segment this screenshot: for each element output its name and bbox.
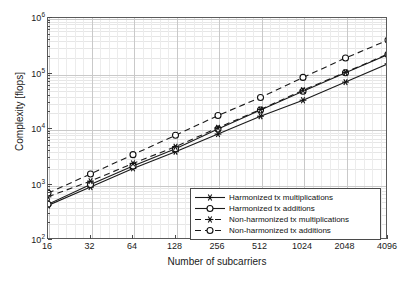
y-tick [48,56,50,57]
y-tick [48,206,50,207]
legend-item: Harmonized tx additions [194,203,376,214]
x-tick-label: 512 [252,241,267,251]
y-tick [48,184,52,185]
series-2 [48,51,387,200]
legend-item: Non-harmonized tx additions [194,225,376,236]
y-tick [48,128,52,129]
y-tick [48,145,50,146]
y-tick [48,133,50,134]
circle-marker-icon [194,225,226,236]
y-tick [48,26,50,27]
y-tick [48,81,50,82]
legend: Harmonized tx multiplicationsHarmonized … [190,188,381,240]
x-tick-label: 256 [209,241,224,251]
y-tick [48,78,50,79]
y-tick [48,34,50,35]
y-tick [48,39,50,40]
y-tick [48,167,50,168]
circle-marker-icon [194,203,226,214]
x-axis-label: Number of subcarriers [47,256,387,267]
y-tick [48,22,50,23]
legend-label: Non-harmonized tx multiplications [226,214,349,225]
y-tick [48,89,50,90]
y-tick [48,29,50,30]
y-tick [48,111,50,112]
y-tick [48,196,50,197]
y-tick [48,157,50,158]
y-tick [48,239,52,240]
star-marker-icon [194,192,226,203]
y-tick-label: 106 [31,11,45,23]
x-tick-label: 128 [167,241,182,251]
y-tick [48,85,50,86]
complexity-chart-figure: 163264128256512102420484096 102103104105… [0,0,401,294]
y-tick [48,189,50,190]
y-tick-label: 105 [31,67,45,79]
y-tick [48,102,50,103]
y-tick [48,95,50,96]
y-tick [48,46,50,47]
legend-item: Harmonized tx multiplications [194,192,376,203]
y-tick [48,20,50,21]
y-tick [48,213,50,214]
y-tick [48,186,50,187]
y-tick-label: 102 [31,233,45,245]
legend-label: Non-harmonized tx additions [226,225,331,236]
x-tick [90,235,91,239]
x-tick-label: 32 [84,241,94,251]
y-tick [48,222,50,223]
y-tick [48,73,52,74]
x-tick [387,235,388,239]
legend-item: Non-harmonized tx multiplications [194,214,376,225]
y-tick [48,140,50,141]
y-tick [48,137,50,138]
y-tick-label: 103 [31,178,45,190]
series-0 [48,61,387,209]
y-tick [48,131,50,132]
y-tick [48,192,50,193]
x-tick [132,235,133,239]
x-tick-label: 64 [127,241,137,251]
y-tick [48,17,52,18]
x-tick-label: 4096 [377,241,397,251]
y-tick [48,150,50,151]
y-tick-label: 104 [31,122,45,134]
x-tick-label: 2048 [334,241,354,251]
y-axis-label: Complexity [flops] [14,27,25,197]
legend-label: Harmonized tx multiplications [226,192,333,203]
series-3 [48,37,387,196]
star-marker-icon [194,214,226,225]
x-tick-label: 1024 [292,241,312,251]
y-tick [48,200,50,201]
x-tick [175,235,176,239]
legend-label: Harmonized tx additions [226,203,315,214]
y-tick [48,75,50,76]
